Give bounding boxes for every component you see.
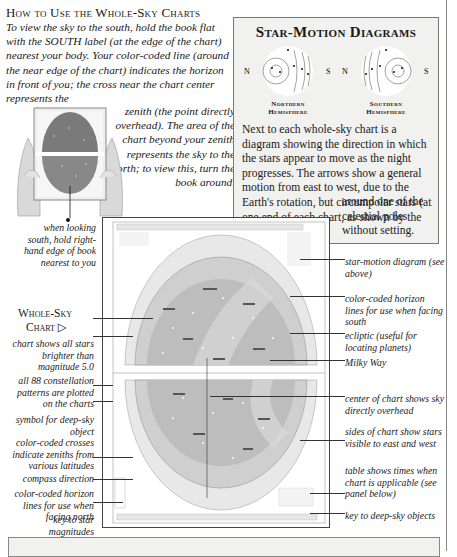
callout-milky-way: Milky Way [345, 357, 445, 369]
star-motion-title: Star-Motion Diagrams [234, 24, 438, 41]
bottom-info-panel [8, 537, 440, 557]
northern-hemisphere-diagram: N S Northern Hemisphere [242, 44, 334, 98]
leader-line [93, 457, 133, 458]
photo-caption: when looking south, hold right-hand edge… [18, 222, 96, 268]
leader-line [310, 493, 345, 494]
leader-line [290, 296, 345, 297]
leader-line [93, 385, 113, 386]
star-motion-description-tail: around one of the celestial poles withou… [342, 195, 436, 239]
callout-ecliptic: ecliptic (useful for locating planets) [345, 330, 445, 353]
leader-line [93, 401, 113, 402]
leader-line [300, 440, 345, 441]
page-heading: How to Use the Whole-Sky Charts [6, 5, 200, 21]
leader-line [300, 259, 345, 260]
callout-times-table: table shows times when chart is applicab… [345, 465, 445, 500]
leader-line [310, 513, 345, 514]
callout-compass-direction: compass direction [6, 473, 94, 485]
southern-hemisphere-diagram: N S Southern Hemisphere [340, 44, 432, 98]
leader-line [270, 360, 345, 361]
svg-text:N: N [244, 67, 250, 76]
star-motion-panel: Star-Motion Diagrams N S Northern Hemisp… [233, 17, 439, 244]
callout-chart-sides: sides of chart show stars visible to eas… [345, 426, 445, 449]
callout-chart-center: center of chart shows sky directly overh… [345, 393, 445, 416]
callout-star-brightness: chart shows all stars brighter than magn… [6, 338, 94, 373]
callout-constellations: all 88 constellation patterns are plotte… [6, 375, 94, 410]
callout-zenith-crosses: color-coded crosses indicate zeniths fro… [6, 437, 94, 472]
leader-line [93, 502, 123, 503]
callout-star-magnitudes-key: key to star magnitudes [6, 514, 94, 537]
callout-deep-sky-symbol: symbol for deep-sky object [6, 414, 94, 437]
callout-deep-sky-key: key to deep-sky objects [345, 510, 445, 522]
intro-text-1: To view the sky to the south, hold the b… [6, 20, 232, 105]
page-edge-rule [446, 0, 447, 551]
callout-south-horizon-lines: color-coded horizon lines for use when f… [345, 293, 445, 328]
whole-sky-chart-heading: Whole-Sky Chart ▷ [18, 306, 72, 334]
intro-text-2: zenith (the point directly overhead). Th… [110, 104, 235, 189]
leader-line [290, 333, 345, 334]
leader-line [93, 318, 153, 319]
callout-star-motion-diagram: star-motion diagram (see above) [345, 256, 445, 279]
leader-line [93, 336, 133, 337]
sample-whole-sky-chart [102, 217, 330, 528]
leader-line [210, 396, 345, 397]
pointer-dot [66, 218, 70, 222]
leader-line [93, 479, 133, 480]
svg-text:N: N [342, 67, 348, 76]
svg-text:S: S [424, 67, 428, 76]
svg-text:S: S [326, 67, 330, 76]
hands-holding-book-photo [14, 106, 126, 218]
